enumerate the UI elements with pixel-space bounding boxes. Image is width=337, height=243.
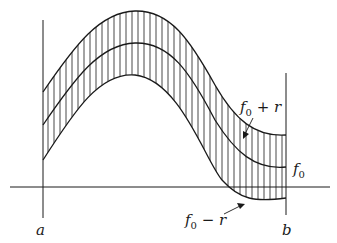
label-f0-minus-r: f0 − r (184, 211, 227, 231)
lower-curve-f0-minus-r (43, 75, 286, 200)
tolerance-band-diagram: a b f0 f0 + r f0 − r (0, 0, 337, 243)
label-f0-plus-r: f0 + r (239, 98, 282, 118)
lower-label-arrow (224, 203, 245, 214)
label-f0: f0 (292, 160, 305, 180)
band-hatching (48, 0, 282, 243)
center-curve-f0 (43, 43, 286, 167)
label-b: b (282, 221, 292, 239)
label-a: a (36, 221, 45, 239)
upper-label-arrow (243, 118, 253, 139)
